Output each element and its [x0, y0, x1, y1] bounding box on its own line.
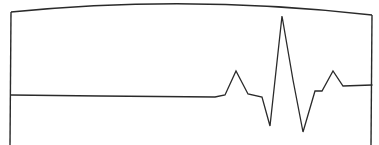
- diagram-canvas: [0, 0, 379, 145]
- waveform-trace: [11, 16, 372, 132]
- waveform-diagram: [0, 0, 379, 145]
- frame-right-edge: [371, 15, 372, 145]
- frame-top-curve: [11, 4, 372, 15]
- frame-left-edge: [10, 12, 11, 145]
